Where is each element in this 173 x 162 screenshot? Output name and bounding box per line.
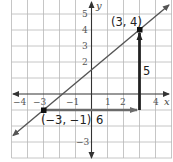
x-axis-label: x xyxy=(164,96,170,107)
y-tick-label: 4 xyxy=(82,25,88,35)
y-tick-label: −3 xyxy=(76,137,90,147)
x-tick-label: −1 xyxy=(66,97,79,107)
point-label-3-4: (3, 4) xyxy=(111,15,142,29)
x-tick-label: −3 xyxy=(33,97,47,107)
coordinate-plane: y x −4 −3 −1 1 2 4 5 4 3 2 −3 (3, 4) (−3… xyxy=(0,0,173,162)
y-tick-label: 5 xyxy=(82,9,88,19)
rise-label: 5 xyxy=(143,64,150,78)
y-tick-label: 2 xyxy=(82,57,88,67)
x-tick-label: 4 xyxy=(153,97,159,107)
point-label-neg3-neg1: (−3, −1) xyxy=(41,113,91,127)
y-axis-label: y xyxy=(95,0,102,11)
run-label: 6 xyxy=(96,113,103,127)
x-tick-label: −4 xyxy=(13,97,27,107)
x-tick-label: 1 xyxy=(105,97,111,107)
x-tick-label: 2 xyxy=(120,97,126,107)
y-tick-label: 3 xyxy=(82,41,88,51)
